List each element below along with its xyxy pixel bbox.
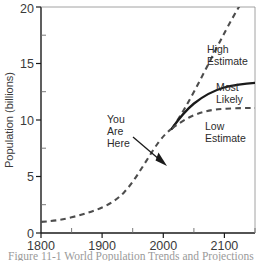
y-axis-title: Population (billions) — [3, 72, 15, 168]
y-tick-label-20: 20 — [20, 2, 34, 16]
y-tick-label-5: 5 — [27, 170, 34, 184]
you-are-here-line-3: Here — [107, 137, 130, 149]
low-estimate-line-1: Low — [205, 120, 225, 132]
y-axis-ticks — [36, 7, 41, 233]
high-estimate-line-2: Estimate — [207, 55, 248, 67]
population-chart: 0 5 10 15 20 1800 1900 2000 2100 Populat… — [0, 0, 266, 261]
y-tick-label-15: 15 — [20, 57, 34, 71]
figure-caption: Figure 11-1 World Population Trends and … — [8, 250, 260, 261]
most-likely-line-2: Likely — [216, 93, 244, 105]
most-likely-line-1: Most — [216, 81, 239, 93]
population-projection-figure: 0 5 10 15 20 1800 1900 2000 2100 Populat… — [0, 0, 266, 261]
you-are-here-line-2: Are — [107, 125, 124, 137]
x-axis-ticks — [41, 233, 224, 238]
high-estimate-line-1: High — [207, 43, 229, 55]
you-are-here-line-1: You — [107, 113, 125, 125]
low-estimate-line-2: Estimate — [205, 132, 246, 144]
y-tick-label-10: 10 — [20, 114, 34, 128]
figure-caption-text: Figure 11-1 World Population Trends and … — [8, 250, 260, 261]
